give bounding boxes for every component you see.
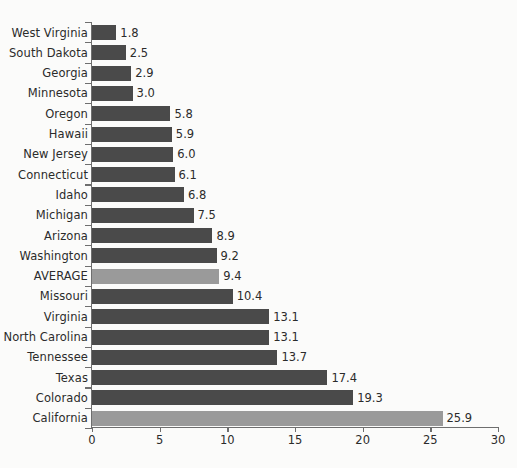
category-label: Michigan xyxy=(36,208,88,222)
bar xyxy=(92,127,172,142)
category-label: Texas xyxy=(56,371,88,385)
x-tick-label: 20 xyxy=(355,433,370,447)
category-label: Virginia xyxy=(44,310,88,324)
plot-area: West Virginia1.8South Dakota2.5Georgia2.… xyxy=(0,0,517,468)
y-tick-mark xyxy=(85,225,92,226)
bar xyxy=(92,167,175,182)
bar-value-label: 3.0 xyxy=(137,86,155,100)
category-label: Washington xyxy=(19,249,88,263)
bar-row: Michigan7.5 xyxy=(0,205,517,226)
bar-value-label: 13.1 xyxy=(273,310,299,324)
bar-value-label: 6.1 xyxy=(179,168,197,182)
bar xyxy=(92,370,327,385)
y-tick-mark xyxy=(85,103,92,104)
bar-value-label: 9.2 xyxy=(221,249,239,263)
bar-value-label: 17.4 xyxy=(331,371,357,385)
category-label: Oregon xyxy=(45,107,88,121)
y-tick-mark xyxy=(85,164,92,165)
x-tick-label: 15 xyxy=(288,433,303,447)
y-tick-mark xyxy=(85,367,92,368)
bar-value-label: 25.9 xyxy=(447,411,473,425)
bar-row: Arizona8.9 xyxy=(0,225,517,246)
bar-value-label: 6.0 xyxy=(177,147,195,161)
bar-row: Georgia2.9 xyxy=(0,63,517,84)
y-tick-mark xyxy=(85,428,92,429)
bar xyxy=(92,208,194,223)
bar-row: California25.9 xyxy=(0,408,517,429)
bar-row: Virginia13.1 xyxy=(0,306,517,327)
y-tick-mark xyxy=(85,184,92,185)
category-label: Arizona xyxy=(44,229,88,243)
category-label: Georgia xyxy=(42,66,88,80)
category-label: Connecticut xyxy=(18,168,88,182)
y-tick-mark xyxy=(85,306,92,307)
bar xyxy=(92,309,269,324)
category-label: North Carolina xyxy=(3,330,88,344)
x-tick-mark xyxy=(363,427,364,432)
y-tick-mark xyxy=(85,327,92,328)
bar-row: New Jersey6.0 xyxy=(0,144,517,165)
bar xyxy=(92,248,217,263)
bar-row: Colorado19.3 xyxy=(0,387,517,408)
category-label: Tennessee xyxy=(27,350,88,364)
bar xyxy=(92,86,133,101)
bar xyxy=(92,106,170,121)
y-tick-mark xyxy=(85,83,92,84)
y-tick-mark xyxy=(85,286,92,287)
y-tick-mark xyxy=(85,408,92,409)
y-tick-mark xyxy=(85,63,92,64)
bar-row: Connecticut6.1 xyxy=(0,164,517,185)
y-tick-mark xyxy=(85,124,92,125)
bar xyxy=(92,330,269,345)
bar xyxy=(92,147,173,162)
x-tick-mark xyxy=(92,427,93,432)
bar-value-label: 13.1 xyxy=(273,330,299,344)
x-tick-label: 5 xyxy=(156,433,163,447)
category-label: AVERAGE xyxy=(34,269,88,283)
y-tick-mark xyxy=(85,205,92,206)
bar-value-label: 19.3 xyxy=(357,391,383,405)
bar xyxy=(92,350,277,365)
bar xyxy=(92,289,233,304)
bar-row: Texas17.4 xyxy=(0,367,517,388)
bar xyxy=(92,25,116,40)
bar-row: Idaho6.8 xyxy=(0,184,517,205)
bar-value-label: 5.9 xyxy=(176,127,194,141)
x-tick-mark xyxy=(498,427,499,432)
bar-value-label: 2.5 xyxy=(130,46,148,60)
bar-value-label: 10.4 xyxy=(237,289,263,303)
y-tick-mark xyxy=(85,387,92,388)
category-label: Colorado xyxy=(36,391,88,405)
bar xyxy=(92,45,126,60)
bar-value-label: 7.5 xyxy=(198,208,216,222)
bar xyxy=(92,66,131,81)
bar xyxy=(92,411,443,426)
y-tick-mark xyxy=(85,245,92,246)
category-label: West Virginia xyxy=(11,26,88,40)
category-label: South Dakota xyxy=(9,46,88,60)
category-label: New Jersey xyxy=(23,147,88,161)
bar-row: Missouri10.4 xyxy=(0,286,517,307)
bar-value-label: 2.9 xyxy=(135,66,153,80)
bar-chart-figure: West Virginia1.8South Dakota2.5Georgia2.… xyxy=(0,0,517,468)
bar-row: Minnesota3.0 xyxy=(0,83,517,104)
bar xyxy=(92,269,219,284)
bar xyxy=(92,187,184,202)
bar xyxy=(92,228,212,243)
bar-row: North Carolina13.1 xyxy=(0,327,517,348)
bar-value-label: 5.8 xyxy=(174,107,192,121)
bar-row: Oregon5.8 xyxy=(0,103,517,124)
x-tick-label: 10 xyxy=(220,433,235,447)
bar xyxy=(92,390,353,405)
category-label: Minnesota xyxy=(28,86,88,100)
x-tick-label: 25 xyxy=(423,433,438,447)
x-tick-label: 0 xyxy=(88,433,95,447)
bar-row: South Dakota2.5 xyxy=(0,42,517,63)
y-tick-mark xyxy=(85,42,92,43)
bar-row: Washington9.2 xyxy=(0,245,517,266)
y-tick-mark xyxy=(85,347,92,348)
bar-value-label: 13.7 xyxy=(281,350,307,364)
category-label: Missouri xyxy=(40,289,88,303)
y-tick-mark xyxy=(85,266,92,267)
bar-value-label: 8.9 xyxy=(216,229,234,243)
